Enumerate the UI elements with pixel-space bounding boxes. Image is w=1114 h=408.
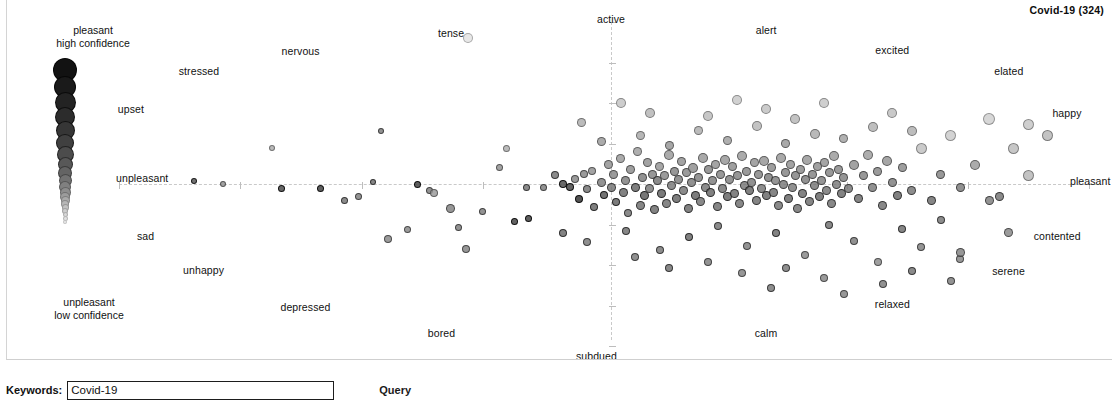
- scatter-point[interactable]: [317, 185, 324, 192]
- scatter-point[interactable]: [786, 160, 795, 169]
- scatter-point[interactable]: [873, 167, 882, 176]
- query-button[interactable]: Query: [379, 384, 411, 396]
- scatter-point[interactable]: [767, 284, 775, 292]
- scatter-plot-area[interactable]: activesubduedpleasantunpleasanttensealer…: [7, 0, 1112, 359]
- scatter-point[interactable]: [656, 246, 664, 254]
- scatter-point[interactable]: [937, 216, 945, 224]
- scatter-point[interactable]: [1042, 130, 1053, 141]
- scatter-point[interactable]: [882, 156, 892, 166]
- scatter-point[interactable]: [893, 191, 902, 200]
- scatter-point[interactable]: [559, 229, 567, 237]
- scatter-point[interactable]: [660, 171, 669, 180]
- scatter-point[interactable]: [767, 163, 776, 172]
- scatter-point[interactable]: [825, 221, 833, 229]
- scatter-point[interactable]: [577, 118, 586, 127]
- scatter-point[interactable]: [732, 95, 742, 105]
- scatter-point[interactable]: [781, 139, 790, 148]
- scatter-point[interactable]: [810, 129, 820, 139]
- scatter-point[interactable]: [278, 185, 285, 192]
- scatter-point[interactable]: [685, 233, 693, 241]
- scatter-point[interactable]: [850, 237, 858, 245]
- scatter-point[interactable]: [636, 201, 645, 210]
- scatter-point[interactable]: [609, 170, 618, 179]
- scatter-point[interactable]: [728, 162, 737, 171]
- scatter-point[interactable]: [583, 238, 591, 246]
- scatter-point[interactable]: [820, 274, 828, 282]
- scatter-point[interactable]: [983, 113, 995, 125]
- scatter-point[interactable]: [779, 180, 788, 189]
- scatter-point[interactable]: [624, 209, 632, 217]
- scatter-point[interactable]: [730, 189, 739, 198]
- scatter-point[interactable]: [808, 170, 817, 179]
- scatter-point[interactable]: [626, 165, 635, 174]
- scatter-point[interactable]: [479, 208, 486, 215]
- scatter-point[interactable]: [633, 147, 642, 156]
- scatter-point[interactable]: [612, 198, 620, 206]
- scatter-point[interactable]: [898, 225, 906, 233]
- scatter-point[interactable]: [650, 205, 659, 214]
- scatter-point[interactable]: [713, 202, 722, 211]
- scatter-point[interactable]: [995, 192, 1004, 201]
- scatter-point[interactable]: [863, 150, 873, 160]
- scatter-point[interactable]: [747, 178, 756, 187]
- scatter-point[interactable]: [590, 203, 598, 211]
- scatter-point[interactable]: [645, 108, 655, 118]
- scatter-point[interactable]: [616, 154, 625, 163]
- scatter-point[interactable]: [679, 186, 688, 195]
- scatter-point[interactable]: [742, 167, 751, 176]
- scatter-point[interactable]: [566, 183, 574, 191]
- scatter-point[interactable]: [970, 160, 980, 170]
- scatter-point[interactable]: [588, 167, 596, 175]
- scatter-point[interactable]: [737, 151, 747, 161]
- scatter-point[interactable]: [1008, 143, 1019, 154]
- scatter-point[interactable]: [825, 168, 834, 177]
- scatter-point[interactable]: [622, 227, 630, 235]
- scatter-point[interactable]: [696, 197, 705, 206]
- scatter-point[interactable]: [790, 114, 800, 124]
- scatter-point[interactable]: [706, 188, 715, 197]
- scatter-point[interactable]: [769, 188, 778, 197]
- scatter-point[interactable]: [820, 158, 829, 167]
- scatter-point[interactable]: [430, 189, 438, 197]
- scatter-point[interactable]: [631, 183, 640, 192]
- scatter-point[interactable]: [868, 183, 877, 192]
- scatter-point[interactable]: [575, 195, 583, 203]
- scatter-point[interactable]: [947, 277, 955, 285]
- scatter-point[interactable]: [752, 196, 761, 205]
- scatter-point[interactable]: [694, 126, 703, 135]
- scatter-point[interactable]: [829, 151, 839, 161]
- scatter-point[interactable]: [874, 258, 882, 266]
- scatter-point[interactable]: [664, 150, 674, 160]
- scatter-point[interactable]: [776, 153, 786, 163]
- scatter-point[interactable]: [378, 128, 384, 134]
- scatter-point[interactable]: [936, 170, 945, 179]
- scatter-point[interactable]: [781, 168, 790, 177]
- scatter-point[interactable]: [859, 171, 868, 180]
- scatter-point[interactable]: [907, 186, 916, 195]
- scatter-point[interactable]: [698, 153, 708, 163]
- scatter-point[interactable]: [1023, 119, 1034, 130]
- scatter-point[interactable]: [571, 175, 579, 183]
- scatter-point[interactable]: [743, 242, 751, 250]
- scatter-point[interactable]: [597, 137, 606, 146]
- scatter-point[interactable]: [703, 111, 713, 121]
- scatter-point[interactable]: [854, 194, 863, 203]
- scatter-point[interactable]: [636, 131, 645, 140]
- scatter-point[interactable]: [735, 199, 744, 208]
- scatter-point[interactable]: [711, 160, 720, 169]
- scatter-point[interactable]: [802, 155, 812, 165]
- scatter-point[interactable]: [945, 130, 956, 141]
- scatter-point[interactable]: [414, 181, 421, 188]
- scatter-point[interactable]: [370, 179, 376, 185]
- scatter-point[interactable]: [191, 178, 197, 184]
- scatter-point[interactable]: [643, 158, 652, 167]
- scatter-point[interactable]: [723, 136, 732, 145]
- scatter-point[interactable]: [754, 170, 763, 179]
- scatter-point[interactable]: [655, 162, 664, 171]
- scatter-point[interactable]: [908, 267, 916, 275]
- scatter-point[interactable]: [774, 201, 783, 210]
- scatter-point[interactable]: [672, 194, 681, 203]
- scatter-point[interactable]: [798, 189, 807, 198]
- scatter-point[interactable]: [752, 121, 762, 131]
- scatter-point[interactable]: [1023, 170, 1034, 181]
